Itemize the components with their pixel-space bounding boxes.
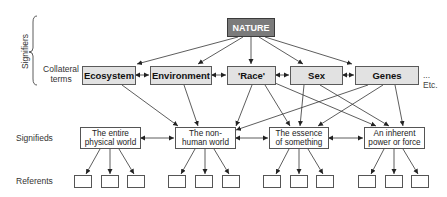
referent-box <box>316 175 334 188</box>
referent-box <box>127 175 145 188</box>
signified-line1: The essence <box>276 129 323 139</box>
collateral-line2: terms <box>40 74 82 84</box>
collateral-line1: Collateral <box>40 64 82 74</box>
referent-box <box>101 175 119 188</box>
referent-box <box>195 175 213 188</box>
node-entire-physical-world: The entire physical world <box>80 127 141 149</box>
signified-line2: power or force <box>368 138 420 148</box>
referent-box <box>74 175 92 188</box>
signified-line2: of something <box>276 138 323 148</box>
level-label-collateral-terms: Collateral terms <box>40 64 82 84</box>
referent-box <box>385 175 403 188</box>
referent-box <box>168 175 186 188</box>
referent-box <box>358 175 376 188</box>
signified-line1: An inherent <box>374 129 416 139</box>
node-nature: NATURE <box>227 18 275 37</box>
referent-box <box>411 175 429 188</box>
signified-line1: The non- <box>189 129 222 139</box>
node-non-human-world: The non- human world <box>175 127 236 149</box>
node-sex: Sex <box>290 66 343 85</box>
level-label-signifieds: Signifieds <box>16 133 53 143</box>
level-label-referents: Referents <box>16 176 53 186</box>
signified-line2: physical world <box>85 138 136 148</box>
node-ecosystem: Ecosystem <box>82 66 136 85</box>
node-genes: Genes <box>355 66 419 85</box>
referent-box <box>263 175 281 188</box>
signified-line1: The entire <box>92 129 129 139</box>
node-environment: Environment <box>150 66 212 85</box>
referent-box <box>222 175 240 188</box>
node-race: 'Race' <box>227 66 276 85</box>
etc-label: ... Etc. <box>423 70 447 90</box>
node-inherent-power: An inherent power or force <box>364 127 425 149</box>
referent-box <box>290 175 308 188</box>
signifiers-brace <box>29 16 37 85</box>
node-essence-of-something: The essence of something <box>269 127 329 149</box>
connection-lines <box>0 0 447 197</box>
signified-line2: human world <box>182 138 229 148</box>
level-label-signifiers: Signifiers <box>20 34 30 69</box>
